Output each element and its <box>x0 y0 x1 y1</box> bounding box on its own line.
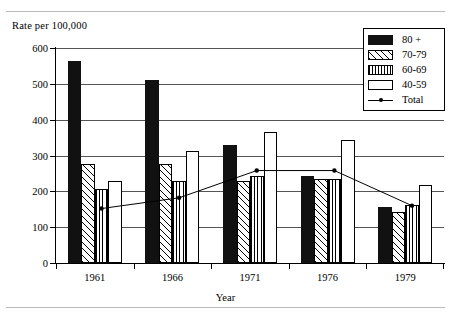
chart-figure: Rate per 100,000 0100200300400500600 196… <box>0 0 451 319</box>
y-tick-label: 500 <box>32 78 48 89</box>
legend-item: 70-79 <box>368 47 440 62</box>
legend-label: Total <box>402 94 423 105</box>
legend-swatch-icon <box>368 65 393 75</box>
x-tick-label: 1971 <box>240 272 261 283</box>
x-tick-mark <box>211 263 212 269</box>
legend-swatch-icon <box>368 50 393 60</box>
total-marker <box>177 196 181 200</box>
x-tick-mark <box>366 263 367 269</box>
total-line <box>102 171 412 209</box>
total-marker <box>99 206 103 210</box>
legend-item: 80 + <box>368 32 440 47</box>
x-tick-label: 1979 <box>395 272 416 283</box>
legend-swatch-icon <box>368 35 393 45</box>
legend-item: 60-69 <box>368 62 440 77</box>
x-axis-title: Year <box>0 292 451 303</box>
legend-swatch-icon <box>368 95 393 105</box>
y-tick-label: 600 <box>32 43 48 54</box>
chart-legend: 80 +70-7960-6940-59Total <box>363 28 445 111</box>
x-tick-mark <box>134 263 135 269</box>
page-rule-top <box>6 11 445 12</box>
legend-swatch-icon <box>368 80 393 90</box>
legend-label: 40-59 <box>402 79 427 90</box>
x-tick-mark <box>443 263 444 269</box>
y-tick-label: 400 <box>32 114 48 125</box>
legend-item: Total <box>368 92 440 107</box>
x-tick-label: 1976 <box>317 272 338 283</box>
x-axis-line <box>55 263 445 264</box>
page-rule-bottom <box>6 307 445 308</box>
legend-label: 80 + <box>402 34 421 45</box>
total-marker <box>255 168 259 172</box>
y-tick-label: 300 <box>32 150 48 161</box>
total-marker <box>410 203 414 207</box>
legend-label: 70-79 <box>402 49 427 60</box>
legend-item: 40-59 <box>368 77 440 92</box>
total-marker <box>332 168 336 172</box>
y-tick-label: 0 <box>43 258 48 269</box>
legend-label: 60-69 <box>402 64 427 75</box>
y-axis-title: Rate per 100,000 <box>12 20 87 31</box>
x-tick-mark <box>289 263 290 269</box>
x-tick-label: 1966 <box>162 272 183 283</box>
y-tick-label: 200 <box>32 186 48 197</box>
y-tick-label: 100 <box>32 222 48 233</box>
x-tick-mark <box>56 263 57 269</box>
x-tick-label: 1961 <box>84 272 105 283</box>
